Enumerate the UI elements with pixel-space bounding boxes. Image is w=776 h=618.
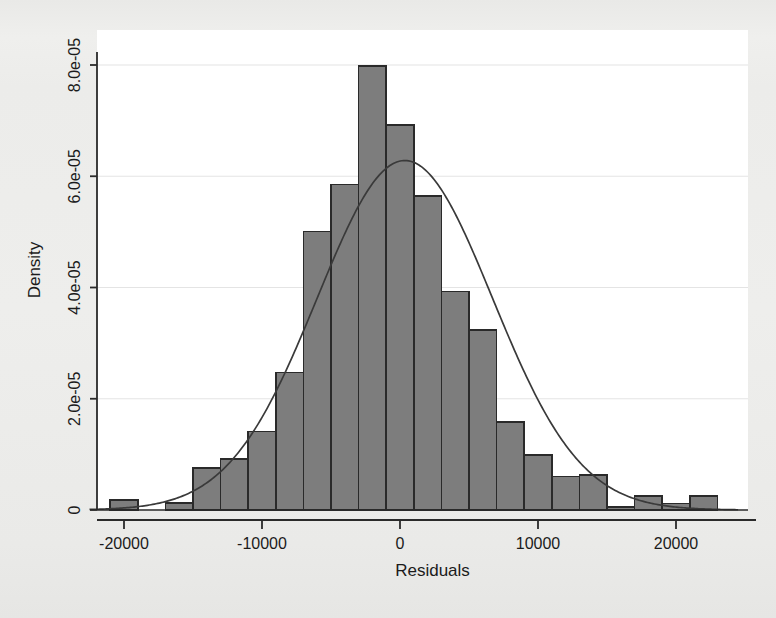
figure-container: -20000-1000001000020000 02.0e-054.0e-056…: [0, 0, 776, 618]
histogram-bar: [497, 422, 525, 510]
histogram-bar: [441, 291, 469, 510]
y-tick-label: 4.0e-05: [66, 260, 83, 314]
y-tick-label: 8.0e-05: [66, 38, 83, 92]
x-tick-label: 20000: [654, 535, 699, 552]
histogram-bar: [359, 66, 387, 510]
histogram-bar: [165, 503, 193, 510]
histogram-bar: [248, 432, 276, 510]
y-tick-label: 6.0e-05: [66, 149, 83, 203]
x-tick-label: -10000: [237, 535, 287, 552]
histogram-chart: -20000-1000001000020000 02.0e-054.0e-056…: [0, 0, 776, 618]
y-axis-label: Density: [25, 241, 44, 298]
histogram-bar: [276, 373, 304, 510]
y-axis-ticks: 02.0e-054.0e-056.0e-058.0e-05: [66, 38, 97, 515]
x-tick-label: 0: [396, 535, 405, 552]
histogram-bar: [524, 455, 552, 510]
x-axis-ticks: -20000-1000001000020000: [99, 520, 698, 552]
y-tick-label: 0: [66, 505, 83, 514]
y-tick-label: 2.0e-05: [66, 372, 83, 426]
x-tick-label: -20000: [99, 535, 149, 552]
histogram-bar: [579, 475, 607, 510]
histogram-bar: [414, 196, 442, 510]
x-tick-label: 10000: [516, 535, 561, 552]
x-axis-label: Residuals: [395, 561, 470, 580]
histogram-bar: [386, 125, 414, 510]
histogram-bar: [552, 477, 580, 510]
histogram-bar: [469, 330, 497, 510]
